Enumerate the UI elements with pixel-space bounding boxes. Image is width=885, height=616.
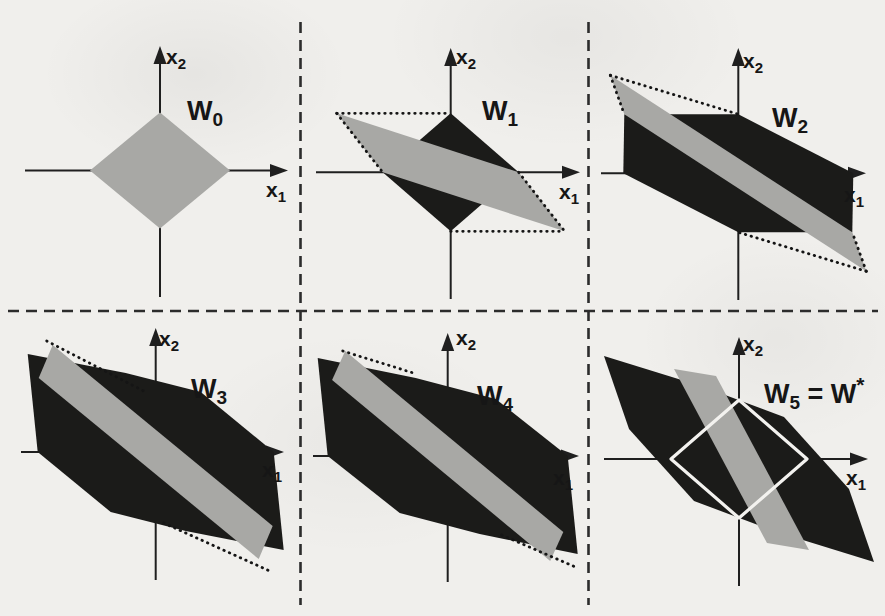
set-label-W1: W1 xyxy=(482,96,518,130)
y-axis-arrow-icon xyxy=(441,333,454,351)
invariant-set-figure: W0x1x2W1x1x2W2x1x2W3x1x2W4x1x2W5 = W*x1x… xyxy=(0,0,885,616)
initial-set-gray-diamond xyxy=(90,113,230,229)
panel-W1: W1x1x2 xyxy=(316,45,580,299)
set-label-W2: W2 xyxy=(772,103,808,137)
x-axis-arrow-icon xyxy=(850,453,868,466)
set-label-W4: W4 xyxy=(477,381,513,415)
panel-W0: W0x1x2 xyxy=(25,45,288,297)
set-label-W5: W5 = W* xyxy=(764,373,865,413)
panel-W2: W2x1x2 xyxy=(601,48,866,300)
x-axis-arrow-icon xyxy=(270,164,288,177)
y-axis-label: x2 xyxy=(743,49,763,76)
y-axis-label: x2 xyxy=(166,45,186,72)
y-axis-label: x2 xyxy=(456,326,476,353)
x-axis-label: x1 xyxy=(262,458,282,485)
panel-W3: W3x1x2 xyxy=(21,327,284,580)
x-axis-label: x1 xyxy=(266,178,286,205)
y-axis-label: x2 xyxy=(456,45,476,72)
y-axis-arrow-icon xyxy=(154,46,167,64)
panel-W4: W4x1x2 xyxy=(313,326,579,582)
x-axis-label: x1 xyxy=(559,180,579,207)
x-axis-arrow-icon xyxy=(562,166,580,179)
x-axis-label: x1 xyxy=(844,183,864,210)
x-axis-label: x1 xyxy=(553,466,573,493)
panel-W5: W5 = W*x1x2 xyxy=(604,332,874,586)
y-axis-label: x2 xyxy=(159,327,179,354)
set-label-W3: W3 xyxy=(191,374,227,408)
x-axis-label: x1 xyxy=(846,466,866,493)
figure-canvas: W0x1x2W1x1x2W2x1x2W3x1x2W4x1x2W5 = W*x1x… xyxy=(0,0,885,616)
set-label-W0: W0 xyxy=(187,96,223,130)
y-axis-label: x2 xyxy=(743,332,763,359)
